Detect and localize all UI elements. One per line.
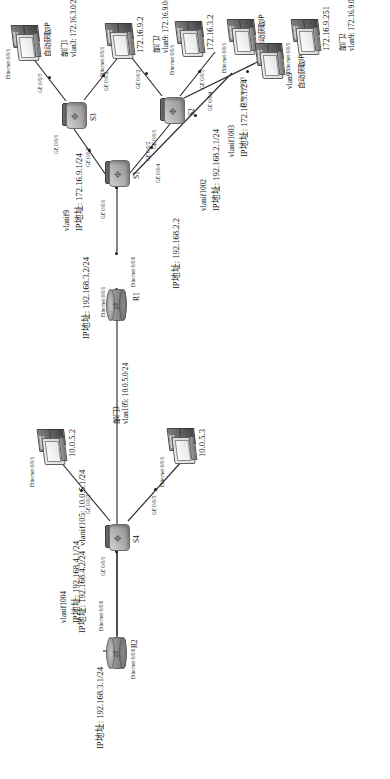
port-label-pc-10-0-5-2: Ethernet 0/0/1 bbox=[30, 457, 36, 487]
port-label-s3-ge003: GE 0/0/3 bbox=[38, 74, 44, 93]
device-label-r2: R2 bbox=[131, 639, 139, 648]
vlan-tag-pc-vlan9-auto: vlan9 bbox=[286, 73, 294, 89]
ip-label-r2-eth000-a: IP地址: 192.168.3.1/24 bbox=[96, 667, 106, 749]
device-label-s4: S4 bbox=[133, 535, 141, 543]
device-label-s1: S1 bbox=[133, 171, 141, 179]
port-label-pc-172-16-9-2: Ethernet 0/0/1 bbox=[100, 47, 106, 77]
ip-label-pc-10-0-5-2: 10.0.5.2 bbox=[68, 429, 78, 457]
diagram-frame: ⇄ R2 Ethernet 0/0/0 IP地址: 192.168.3.1/24… bbox=[0, 0, 390, 779]
department-2b-label: 部门2 vlan9: 172.16.9.0/24 bbox=[338, 0, 357, 51]
host-pc-auto-s2[interactable] bbox=[228, 21, 254, 55]
department-1-subnet: vlan3: 172.16.3.0/24 bbox=[69, 0, 78, 57]
vlanif-label-s1-1002: vlanif1002 bbox=[200, 179, 208, 211]
port-label-s2-ge004: GE 0/0/4 bbox=[208, 92, 214, 111]
host-pc-172-16-9-2[interactable] bbox=[106, 25, 132, 59]
ip-label-pc-vlan9-auto: 自动获取IP bbox=[298, 54, 306, 89]
host-pc-vlan9-auto[interactable] bbox=[256, 45, 282, 79]
ip-label-s1-1002: IP地址: 192.168.2.1/24 bbox=[212, 129, 222, 211]
department-2a-name: 部门2 bbox=[152, 35, 161, 53]
vlanif-label-s4-1004: vlanif1004 bbox=[60, 591, 68, 623]
department-2a-label: 部门2 vlan9: 172.16.9.0/24 bbox=[152, 0, 171, 53]
ip-label-s4-1004: IP地址: 192.168.4.1/24 bbox=[72, 541, 82, 623]
port-label-r1-eth000: Ethernet 0/0/0 bbox=[131, 257, 137, 287]
host-pc-10-0-5-3[interactable] bbox=[168, 430, 194, 464]
port-label-s4-ge001: GE 0/0/1 bbox=[101, 557, 107, 576]
host-pc-10-0-5-2[interactable] bbox=[38, 431, 64, 465]
port-label-pc-172-16-9-251: Ethernet 0/0/1 bbox=[286, 43, 292, 73]
device-label-r1: R1 bbox=[133, 292, 141, 301]
device-router-r2[interactable]: ⇄ bbox=[106, 639, 127, 669]
device-switch-s2[interactable]: ✥ bbox=[160, 98, 184, 124]
port-label-pc-vlan9-auto: Ethernet 0/0/1 bbox=[240, 77, 246, 107]
ip-label-pc-172-16-3-2: 172.16.3.2 bbox=[206, 14, 216, 51]
device-router-r1[interactable]: ⇄ bbox=[106, 291, 127, 321]
department-2b-name: 部门2 bbox=[338, 33, 347, 51]
device-switch-s1[interactable]: ✥ bbox=[105, 161, 129, 187]
port-label-s4-ge002: GE 0/0/2 bbox=[86, 495, 92, 514]
port-label-r2-eth000-b: Ethernet 0/0/0 bbox=[99, 601, 105, 631]
department-1-name: 部门1 bbox=[60, 39, 69, 57]
port-label-s2-ge003: GE 0/0/3 bbox=[200, 70, 206, 89]
port-label-s2-ge002: GE 0/0/2 bbox=[136, 70, 142, 89]
topology-canvas: ⇄ R2 Ethernet 0/0/0 IP地址: 192.168.3.1/24… bbox=[0, 0, 390, 779]
device-label-s2: S2 bbox=[188, 108, 196, 116]
department-3-name: 部门3 bbox=[112, 406, 121, 424]
ip-label-pc-172-16-9-2: 172.16.9.2 bbox=[136, 16, 146, 53]
host-pc-auto-s3[interactable] bbox=[12, 27, 38, 61]
port-label-pc-auto-s3: Ethernet 0/0/1 bbox=[6, 49, 12, 79]
department-2b-subnet: vlan9: 172.16.9.0/24 bbox=[347, 0, 356, 51]
department-3-label: 部门3 vlan105: 10.0.5.0/24 bbox=[112, 363, 131, 424]
vlanif-label-s1-9: vlanif9 bbox=[63, 210, 71, 231]
port-label-s3-ge001: GE 0/0/1 bbox=[54, 135, 60, 154]
ip-label-r1-eth001: IP地址: 192.168.3.2/24 bbox=[82, 257, 92, 339]
port-label-s1-ge004: GE 0/0/4 bbox=[156, 164, 162, 183]
port-label-r2-eth000-a: Ethernet 0/0/0 bbox=[131, 649, 137, 679]
department-1-label: 部门1 vlan3: 172.16.3.0/24 bbox=[60, 0, 79, 57]
port-label-s1-ge003: GE 0/0/3 bbox=[86, 148, 92, 167]
port-label-s1-ge001: GE 0/0/1 bbox=[101, 200, 107, 219]
department-3-subnet: vlan105: 10.0.5.0/24 bbox=[121, 363, 130, 424]
device-switch-s3[interactable]: ✥ bbox=[62, 103, 86, 129]
ip-label-r1-eth000: IP地址: 192.168.2.2 bbox=[172, 218, 182, 289]
port-label-s2-ge001: GE 0/0/1 bbox=[152, 130, 158, 149]
port-label-s4-ge003: GE 0/0/3 bbox=[152, 496, 158, 515]
port-label-pc-auto-s2: Ethernet 0/0/1 bbox=[222, 43, 228, 73]
port-label-pc-172-16-3-2: Ethernet 0/0/1 bbox=[170, 45, 176, 75]
device-label-s3: S3 bbox=[90, 113, 98, 121]
ip-label-s1-9: IP地址: 172.16.9.1/24 bbox=[75, 153, 85, 231]
port-label-pc-10-0-5-3: Ethernet 0/0/1 bbox=[160, 457, 166, 487]
ip-label-pc-172-16-9-251: 172.16.9.251 bbox=[322, 6, 332, 51]
host-pc-172-16-9-251[interactable] bbox=[292, 21, 318, 55]
host-pc-172-16-3-2[interactable] bbox=[176, 23, 202, 57]
device-switch-s4[interactable]: ✥ bbox=[105, 525, 129, 551]
ip-label-pc-10-0-5-3: 10.0.5.3 bbox=[198, 429, 208, 457]
ip-label-pc-auto-s3: 自动获取IP bbox=[44, 22, 52, 57]
vlanif-label-s1-1003: vlanif1003 bbox=[228, 125, 236, 157]
port-label-r1-eth001: Ethernet 0/0/1 bbox=[101, 287, 107, 317]
